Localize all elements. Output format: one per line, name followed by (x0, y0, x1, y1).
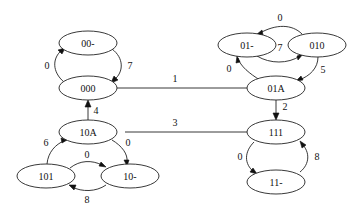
edge-label: 0 (238, 151, 243, 162)
edge-label: 2 (283, 101, 288, 112)
edge-00--to-000: 7 (111, 49, 133, 83)
arrowhead-icon (99, 162, 106, 167)
node-000: 000 (59, 76, 117, 100)
edge-101-to-10A: 6 (44, 137, 68, 164)
arrowhead-icon (85, 100, 91, 107)
edge-label: 7 (128, 60, 133, 71)
edge-101-to-10-: 0 (70, 149, 106, 168)
node-label: 11- (270, 177, 283, 188)
edge-10--to-101: 8 (69, 185, 106, 205)
edge-01A-to-111: 2 (273, 100, 288, 120)
edge-label: 5 (321, 64, 326, 75)
edge-010-to-01A: 5 (296, 57, 326, 81)
edge-label: 0 (45, 60, 50, 71)
arrowhead-icon (300, 141, 306, 148)
node-01-: 01- (218, 33, 276, 57)
edge-label: 8 (315, 151, 320, 162)
edge-label: 0 (85, 149, 90, 160)
edge-10A-to-000: 4 (85, 100, 99, 120)
edge-label: 6 (44, 137, 49, 148)
node-label: 000 (81, 83, 96, 94)
edge-label: 8 (85, 194, 90, 205)
node-label: 10- (123, 171, 136, 182)
edge-label: 0 (278, 12, 283, 23)
node-label: 111 (269, 127, 283, 138)
node-label: 01- (240, 40, 253, 51)
node-111: 111 (247, 120, 305, 144)
edge-label: 4 (94, 105, 99, 116)
edge-label: 0 (227, 63, 232, 74)
edge-111-to-11-: 0 (238, 142, 258, 174)
node-10-: 10- (101, 164, 159, 188)
edge-10A-111: 3 (125, 117, 247, 132)
edge-label: 3 (173, 117, 178, 128)
edge-label: 0 (126, 137, 131, 148)
edge-label: 1 (173, 73, 178, 84)
edge-11--to-111: 8 (300, 141, 320, 172)
node-01A: 01A (247, 76, 305, 100)
node-label: 00- (81, 38, 94, 49)
node-label: 010 (310, 40, 325, 51)
node-label: 01A (267, 83, 285, 94)
node-00-: 00- (59, 31, 117, 55)
state-diagram: 0 7 1 0 7 0 5 2 4 (0, 0, 359, 210)
node-11-: 11- (247, 170, 305, 194)
node-101: 101 (17, 164, 75, 188)
arrowhead-icon (69, 185, 76, 190)
edge-label: 7 (278, 42, 283, 53)
edge-10A-to-10-: 0 (112, 137, 131, 166)
edge-010-to-01-: 0 (256, 12, 302, 35)
node-label: 101 (39, 171, 54, 182)
node-label: 10A (79, 127, 97, 138)
node-10A: 10A (59, 120, 117, 144)
edge-000-to-00-: 0 (45, 48, 66, 82)
arrowhead-icon (273, 113, 279, 120)
node-010: 010 (288, 33, 346, 57)
edge-000-01A: 1 (117, 73, 247, 88)
edge-01A-to-01-: 0 (227, 56, 261, 80)
